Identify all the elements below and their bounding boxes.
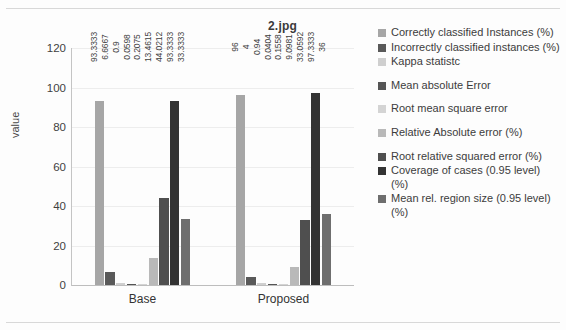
bar-slot[interactable]: 0.0598 [127, 48, 136, 285]
bar-value-label: 0.0404 [263, 34, 273, 59]
bar-slot[interactable]: 0.9 [116, 48, 125, 285]
bar-value-label: 6.6667 [100, 34, 110, 59]
bar[interactable] [159, 198, 168, 285]
legend-swatch-icon [378, 29, 386, 37]
bar[interactable] [279, 284, 288, 285]
bar[interactable] [149, 258, 158, 285]
y-tick-label: 100 [47, 82, 66, 94]
bar[interactable] [181, 219, 190, 285]
bar[interactable] [116, 283, 125, 285]
bar-value-label: 9.0981 [284, 34, 294, 59]
legend-swatch-icon [378, 167, 386, 175]
bar-slot[interactable]: 44.0212 [159, 48, 168, 285]
legend-item[interactable]: Kappa statistc [378, 55, 560, 69]
bar-slot[interactable]: 96 [236, 48, 245, 285]
bar-value-label: 13.4615 [143, 32, 153, 62]
bar[interactable] [268, 284, 277, 285]
bar-slot[interactable]: 0.2075 [138, 48, 147, 285]
bar[interactable] [300, 220, 309, 285]
chart-legend: Correctly classified Instances (%)Incorr… [378, 26, 560, 221]
bar-value-label: 0.94 [252, 39, 262, 55]
legend-item-label: Relative Absolute error (%) [391, 126, 522, 140]
bar-slot[interactable]: 9.0981 [290, 48, 299, 285]
legend-item-label: Root mean square error [391, 102, 508, 116]
bar[interactable] [138, 284, 147, 285]
legend-item-label: Kappa statistc [391, 55, 460, 69]
legend-item[interactable]: Coverage of cases (0.95 level) (%) [378, 164, 560, 191]
legend-item[interactable]: Root relative squared error (%) [378, 150, 560, 164]
bar-group: 9640.940.04040.15589.098133.059297.33333… [236, 48, 332, 285]
legend-item-label: Mean absolute Error [391, 79, 491, 93]
y-tick-label: 40 [53, 200, 66, 212]
y-tick-label: 80 [53, 121, 66, 133]
legend-item[interactable]: Root mean square error [378, 102, 560, 116]
bar-slot[interactable]: 36 [322, 48, 331, 285]
bar[interactable] [236, 95, 245, 285]
y-tick-label: 0 [60, 279, 66, 291]
legend-item[interactable]: Mean absolute Error [378, 79, 560, 93]
bar[interactable] [95, 101, 104, 285]
legend-item-label: Incorrectly classified instances (%) [391, 41, 560, 55]
bar-slot[interactable]: 93.3333 [95, 48, 104, 285]
bar-groups: 93.33336.66670.90.05980.207513.461544.02… [72, 48, 354, 285]
bar-slot[interactable]: 4 [246, 48, 255, 285]
y-axis-title: value [9, 112, 21, 138]
bar-value-label: 36 [317, 42, 327, 51]
chart-figure: 2.jpg value 020406080100120 93.33336.666… [0, 0, 566, 330]
bar-value-label: 96 [230, 42, 240, 51]
bar-value-label: 0.2075 [132, 34, 142, 59]
bar-group: 93.33336.66670.90.05980.207513.461544.02… [95, 48, 191, 285]
bar[interactable] [322, 214, 331, 285]
legend-item[interactable]: Incorrectly classified instances (%) [378, 41, 560, 55]
bar-value-label: 97.3333 [306, 32, 316, 62]
bar-slot[interactable]: 0.94 [257, 48, 266, 285]
legend-swatch-icon [378, 105, 386, 113]
bar-value-label: 44.0212 [154, 32, 164, 62]
bar[interactable] [170, 101, 179, 285]
legend-swatch-icon [378, 58, 386, 66]
chart-title: 2.jpg [210, 19, 355, 33]
y-tick-label: 120 [47, 42, 66, 54]
x-axis-labels: BaseProposed [72, 292, 354, 312]
bar-value-label: 33.3333 [176, 32, 186, 62]
bar-slot[interactable]: 13.4615 [149, 48, 158, 285]
bar-value-label: 93.3333 [89, 32, 99, 62]
bar[interactable] [290, 267, 299, 285]
bar-slot[interactable]: 97.3333 [311, 48, 320, 285]
bar-slot[interactable]: 6.6667 [105, 48, 114, 285]
y-tick-label: 20 [53, 240, 66, 252]
legend-item-label: Coverage of cases (0.95 level) (%) [391, 164, 560, 191]
bar-slot[interactable]: 0.1558 [279, 48, 288, 285]
legend-item[interactable]: Relative Absolute error (%) [378, 126, 560, 140]
x-axis-category-label: Base [129, 292, 156, 306]
bar-slot[interactable]: 0.0404 [268, 48, 277, 285]
legend-swatch-icon [378, 82, 386, 90]
legend-item-label: Correctly classified Instances (%) [391, 26, 554, 40]
bar[interactable] [246, 277, 255, 285]
x-axis-category-label: Proposed [258, 292, 309, 306]
y-tick-label: 60 [53, 161, 66, 173]
bar-value-label: 0.1558 [273, 34, 283, 59]
bar-value-label: 93.3333 [165, 32, 175, 62]
bar-slot[interactable]: 93.3333 [170, 48, 179, 285]
y-axis-ticks: 020406080100120 [30, 48, 70, 285]
bar-value-label: 4 [241, 45, 251, 50]
legend-swatch-icon [378, 129, 386, 137]
plot-area: 2.jpg value 020406080100120 93.33336.666… [0, 0, 362, 330]
legend-item[interactable]: Correctly classified Instances (%) [378, 26, 560, 40]
bar-slot[interactable]: 33.0592 [300, 48, 309, 285]
legend-item-label: Root relative squared error (%) [391, 150, 542, 164]
bar[interactable] [257, 283, 266, 285]
legend-swatch-icon [378, 195, 386, 203]
bar-value-label: 0.0598 [122, 34, 132, 59]
bar-value-label: 0.9 [111, 41, 121, 53]
legend-swatch-icon [378, 153, 386, 161]
bar-value-label: 33.0592 [295, 32, 305, 62]
bar-slot[interactable]: 33.3333 [181, 48, 190, 285]
legend-item[interactable]: Mean rel. region size (0.95 level) (%) [378, 192, 560, 219]
bar[interactable] [105, 272, 114, 285]
axis-baseline [72, 285, 354, 286]
bar[interactable] [311, 93, 320, 285]
bar[interactable] [127, 284, 136, 285]
legend-item-label: Mean rel. region size (0.95 level) (%) [391, 192, 560, 219]
